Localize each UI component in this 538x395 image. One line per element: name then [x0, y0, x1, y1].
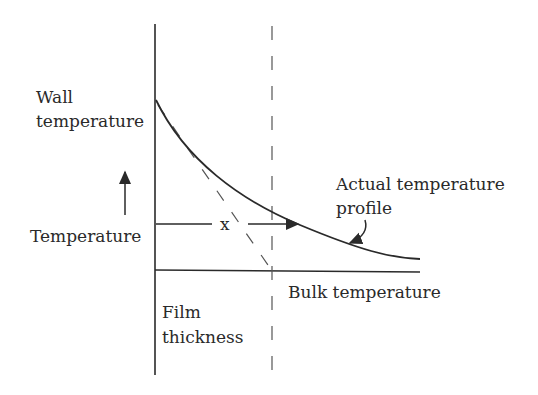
- bulk-temperature-line: [155, 270, 420, 272]
- wall-temperature-label-line2: temperature: [36, 111, 144, 131]
- actual-profile-label-line2: profile: [336, 198, 392, 218]
- film-thickness-label-line1: Film: [162, 302, 201, 322]
- bulk-temperature-label: Bulk temperature: [288, 282, 441, 302]
- temperature-axis-label: Temperature: [30, 226, 141, 246]
- profile-pointer-arrow-icon: [350, 220, 366, 243]
- actual-profile-label-line1: Actual temperature: [335, 174, 505, 194]
- film-thickness-label-line2: thickness: [162, 327, 244, 347]
- wall-temperature-label-line1: Wall: [36, 87, 73, 107]
- tangent-dashed-line: [158, 105, 270, 268]
- film-thickness-diagram: Wall temperature Temperature x Actual te…: [0, 0, 538, 395]
- x-label: x: [220, 214, 230, 234]
